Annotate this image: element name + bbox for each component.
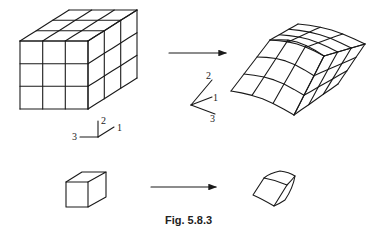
axis-label-3-right: 3 [210,113,215,124]
top-face-grid-u [20,10,69,41]
side-face-grid-v [88,10,137,41]
undeformed-mesh-block [20,10,137,109]
deformed-mesh-block [231,24,365,115]
deformed-front-face-grid-v [244,74,304,95]
deformed-side-face-grid-v [324,44,365,56]
top-face-grid-u [43,10,92,41]
deformed-top-face-grid-v [289,29,352,48]
deformed-front-face-grid-v [257,57,314,76]
top-face-grid-u [65,10,114,41]
deformed-top-face-grid-u [270,24,298,40]
side-face-grid-v [88,33,137,64]
deformed-top-face-grid-v [298,24,365,44]
side-face-grid-v [88,55,137,86]
axis-label-1-left: 1 [117,122,122,133]
single-element-cube [66,172,106,207]
deformed-front-face-grid-u [231,40,270,91]
figure-caption: Fig. 5.8.3 [165,214,212,226]
axis-label-2-right: 2 [206,70,211,81]
axis-label-3-left: 3 [72,131,77,142]
axes-triad-left: 2 1 3 [72,115,122,142]
axes-triad-right: 2 1 3 [191,70,218,124]
axis-label-1-right: 1 [213,92,218,103]
deformed-front-face-grid-v [231,91,294,115]
deformation-figure: 2 1 3 2 1 3 Fig. 5.8.3 [0,0,383,232]
distorted-element [253,171,295,206]
axis-1-left [98,127,114,137]
side-face-grid-v [88,78,137,109]
axis-label-2-left: 2 [101,115,106,126]
deformed-front-face-grid-u [273,46,306,104]
